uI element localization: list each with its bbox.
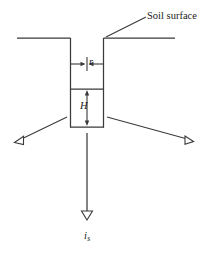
depth-bottom-arrowhead bbox=[85, 121, 89, 127]
depth-label: H bbox=[80, 101, 88, 112]
flux-subscript: s bbox=[87, 234, 90, 243]
diagram-canvas bbox=[0, 0, 210, 254]
radius-label: r bbox=[89, 57, 93, 68]
right-pointer-open-triangle bbox=[185, 136, 194, 144]
flux-label: is bbox=[84, 231, 90, 243]
left-pointer-open-triangle bbox=[15, 136, 24, 144]
flux-arrow-group bbox=[82, 133, 93, 220]
right-soil-pointer-group bbox=[107, 117, 194, 144]
flux-arrow-open-triangle bbox=[82, 211, 93, 220]
left-soil-pointer-group bbox=[15, 117, 68, 145]
right-pointer-line bbox=[107, 117, 186, 139]
soil-shaft-figure: Soil surface r H is bbox=[0, 0, 210, 254]
radius-dimension-group bbox=[71, 57, 103, 71]
left-pointer-line bbox=[23, 117, 68, 139]
soil-surface-leader-line bbox=[106, 17, 146, 37]
radius-left-arrowhead bbox=[81, 62, 86, 66]
soil-surface-label: Soil surface bbox=[147, 11, 197, 22]
depth-top-arrowhead bbox=[85, 90, 89, 96]
